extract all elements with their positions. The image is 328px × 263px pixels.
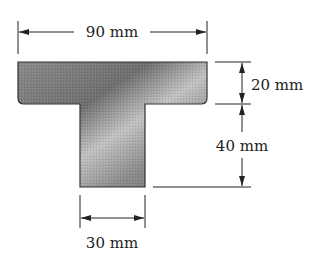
dimension-flange-width: 90 mm [18,21,207,54]
label-flange-thickness: 20 mm [251,76,303,94]
t-section-shape [18,62,207,187]
label-flange-width: 90 mm [86,23,138,41]
label-web-height: 40 mm [216,137,268,155]
dimension-web-width: 30 mm [80,195,145,252]
t-section-diagram: 90 mm 20 mm 40 mm 30 mm [0,0,328,263]
label-web-width: 30 mm [86,234,138,252]
